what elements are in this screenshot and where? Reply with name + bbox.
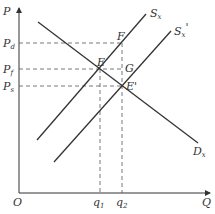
point-e-label: E	[96, 56, 105, 69]
supply-demand-diagram: P Q O Pd Pf Ps q1 q2 Sx Sx' Dx E F G E'	[0, 0, 215, 214]
price-label-ps: Ps	[2, 80, 14, 94]
guide-lines	[19, 43, 122, 193]
point-g-label: G	[125, 62, 134, 75]
point-e-prime-label: E'	[125, 80, 137, 93]
demand-label: Dx	[192, 145, 206, 159]
price-label-pf: Pf	[2, 63, 14, 77]
quantity-label-q1: q1	[93, 196, 105, 210]
supply-shifted-label: Sx'	[174, 21, 189, 39]
price-label-pd: Pd	[2, 37, 15, 51]
y-axis-label: P	[2, 5, 11, 18]
point-f-label: F	[116, 30, 125, 43]
supply-label: Sx	[150, 7, 162, 21]
supply-curve-shifted	[54, 31, 171, 162]
x-axis-label: Q	[202, 196, 211, 209]
quantity-label-q2: q2	[116, 196, 128, 210]
origin-label: O	[13, 196, 22, 209]
